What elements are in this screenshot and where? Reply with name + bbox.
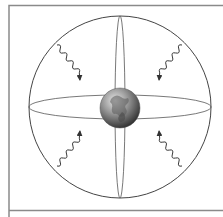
wave-upper-left-icon <box>49 44 88 80</box>
isotropic-radiation-diagram <box>0 0 223 217</box>
wave-lower-left-icon <box>49 131 88 167</box>
wave-lower-right-icon <box>150 131 189 167</box>
earth-globe-icon <box>100 88 140 128</box>
wave-upper-right-icon <box>150 44 189 80</box>
